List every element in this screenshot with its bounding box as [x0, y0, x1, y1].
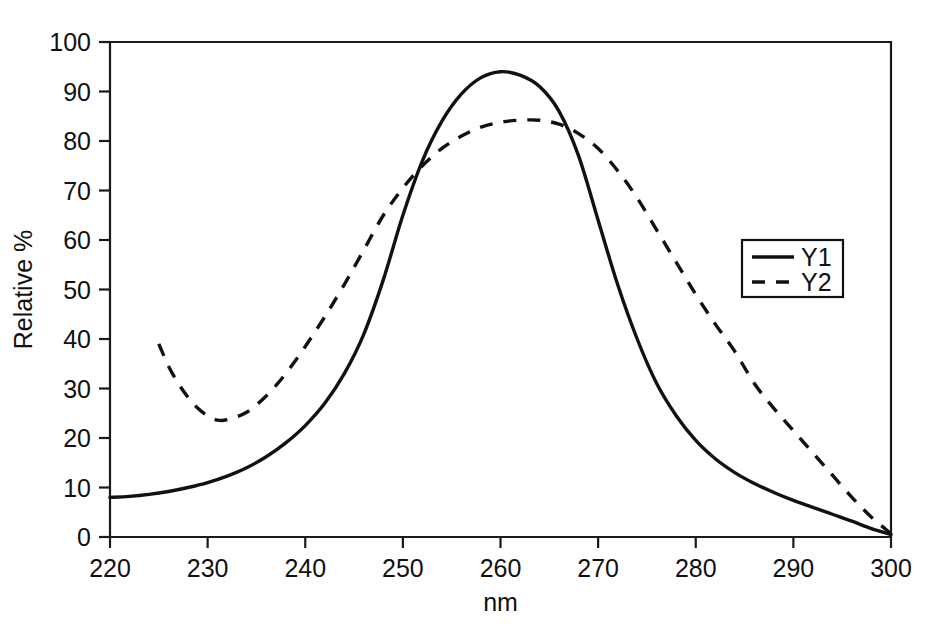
x-tick-label: 250 — [382, 554, 424, 582]
x-axis-ticks: 220230240250260270280290300 — [89, 537, 912, 582]
y-tick-label: 90 — [63, 78, 91, 106]
y-tick-label: 100 — [49, 28, 91, 56]
y-tick-label: 20 — [63, 424, 91, 452]
x-tick-label: 260 — [480, 554, 522, 582]
series-line-y1 — [110, 72, 891, 535]
x-tick-label: 220 — [89, 554, 131, 582]
x-tick-label: 280 — [675, 554, 717, 582]
x-tick-label: 300 — [870, 554, 912, 582]
x-tick-label: 230 — [187, 554, 229, 582]
series-line-y2 — [159, 120, 891, 534]
legend-label-y1: Y1 — [801, 243, 832, 271]
y-tick-label: 30 — [63, 375, 91, 403]
y-axis-title: Relative % — [9, 230, 37, 350]
y-tick-label: 0 — [77, 523, 91, 551]
y-tick-label: 40 — [63, 325, 91, 353]
chart-container: 0102030405060708090100 22023024025026027… — [0, 0, 951, 630]
line-chart: 0102030405060708090100 22023024025026027… — [0, 0, 951, 630]
x-tick-label: 270 — [577, 554, 619, 582]
y-tick-label: 60 — [63, 226, 91, 254]
y-tick-label: 50 — [63, 276, 91, 304]
x-tick-label: 290 — [773, 554, 815, 582]
x-axis-title: nm — [483, 588, 518, 616]
y-tick-label: 10 — [63, 474, 91, 502]
y-axis-ticks: 0102030405060708090100 — [49, 28, 110, 551]
legend: Y1 Y2 — [742, 240, 843, 297]
x-tick-label: 240 — [284, 554, 326, 582]
series-group — [110, 72, 891, 535]
legend-label-y2: Y2 — [801, 268, 832, 296]
y-tick-label: 70 — [63, 177, 91, 205]
y-tick-label: 80 — [63, 127, 91, 155]
